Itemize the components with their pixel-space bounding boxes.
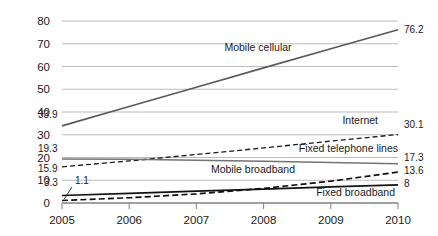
end-value-label: 13.6 bbox=[404, 165, 424, 176]
series-annotation-label: Mobile broadband bbox=[211, 163, 295, 175]
start-value-label: 19.3 bbox=[38, 143, 58, 154]
y-axis-tick-label: 70 bbox=[37, 38, 50, 50]
series-annotation-label: Fixed telephone lines bbox=[299, 142, 398, 154]
series-annotation-label: Internet bbox=[342, 114, 378, 126]
y-axis-tick-label: 50 bbox=[37, 83, 50, 95]
start-value-label: 1.1 bbox=[75, 175, 89, 186]
start-value-label: 33.9 bbox=[38, 109, 58, 120]
x-axis-tick-label: 2006 bbox=[116, 214, 142, 226]
x-axis-tick-label: 2005 bbox=[49, 214, 75, 226]
x-axis-tick-label: 2008 bbox=[251, 214, 277, 226]
x-axis-tick-label: 2009 bbox=[318, 214, 344, 226]
start-value-label: 15.9 bbox=[38, 163, 58, 174]
y-axis-tick-label: 80 bbox=[37, 15, 50, 27]
end-value-label: 30.1 bbox=[404, 119, 424, 130]
series-annotation-label: Mobile cellular bbox=[224, 41, 292, 53]
line-chart: 01020304050607080 2005200620072008200920… bbox=[0, 0, 438, 236]
end-value-label: 17.3 bbox=[404, 152, 424, 163]
x-axis-tick-label: 2010 bbox=[385, 214, 411, 226]
y-axis-tick-label: 0 bbox=[44, 197, 50, 209]
start-value-label: 3.3 bbox=[44, 177, 58, 188]
end-value-label: 8 bbox=[404, 178, 410, 189]
y-axis-tick-label: 30 bbox=[37, 129, 50, 141]
series-annotation-label: Fixed broadband bbox=[316, 186, 395, 198]
x-axis-tick-label: 2007 bbox=[184, 214, 210, 226]
end-value-label: 76.2 bbox=[404, 24, 424, 35]
chart-container: 01020304050607080 2005200620072008200920… bbox=[0, 0, 438, 236]
y-axis-tick-label: 60 bbox=[37, 61, 50, 73]
